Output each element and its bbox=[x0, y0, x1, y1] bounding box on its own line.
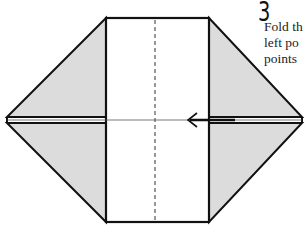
step-instruction: Fold th left po points bbox=[264, 19, 306, 67]
right-lower-flap bbox=[209, 123, 302, 222]
left-lower-flap bbox=[7, 123, 106, 222]
instruction-line: Fold th bbox=[264, 19, 306, 35]
origami-fold-diagram bbox=[0, 0, 306, 237]
instruction-line: points bbox=[264, 51, 306, 67]
instruction-line: left po bbox=[264, 35, 306, 51]
left-upper-flap bbox=[7, 18, 106, 117]
